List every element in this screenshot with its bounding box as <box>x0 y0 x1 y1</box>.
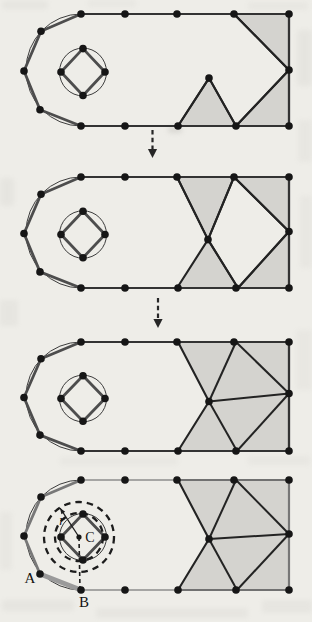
mesh-node <box>77 173 85 181</box>
mesh-node <box>79 556 87 564</box>
discretized-arc-front <box>24 14 81 126</box>
mesh-node <box>232 586 240 594</box>
panel-step-3 <box>20 338 293 455</box>
mesh-node <box>77 338 85 346</box>
mesh-node <box>121 586 129 594</box>
label-C: C <box>85 530 94 545</box>
mesh-node <box>285 390 293 398</box>
panel-step-2 <box>20 173 293 292</box>
true-arc-geometry <box>26 177 81 288</box>
mesh-node <box>77 10 85 18</box>
mesh-node <box>77 122 85 130</box>
mesh-node <box>37 493 45 501</box>
mesh-node <box>285 228 293 236</box>
mesh-node <box>79 418 87 426</box>
mesh-node <box>101 533 109 541</box>
mesh-node <box>37 190 45 198</box>
mesh-node <box>204 236 212 244</box>
mesh-node <box>173 338 181 346</box>
mesh-node <box>173 476 181 484</box>
mesh-node <box>285 586 293 594</box>
step-transition-arrow <box>148 130 157 158</box>
mesh-node <box>79 254 87 262</box>
mesh-node <box>101 68 109 76</box>
true-arc-geometry <box>26 342 81 451</box>
label-A: A <box>25 570 36 586</box>
active-front-edge-AB <box>40 574 81 590</box>
mesh-node <box>77 284 85 292</box>
mesh-node <box>77 447 85 455</box>
mesh-node <box>57 533 65 541</box>
true-hole-geometry <box>60 211 107 258</box>
mesh-node <box>121 173 129 181</box>
mesh-node <box>79 510 87 518</box>
mesh-node <box>20 532 28 540</box>
mesh-node <box>230 476 238 484</box>
mesh-node <box>232 122 240 130</box>
mesh-node <box>101 395 109 403</box>
mesh-node <box>174 284 182 292</box>
mesh-node <box>230 338 238 346</box>
mesh-node <box>230 10 238 18</box>
shaded-mesh-region <box>178 78 236 126</box>
mesh-node <box>36 106 44 114</box>
mesh-node <box>174 122 182 130</box>
mesh-node <box>174 447 182 455</box>
mesh-node <box>285 530 293 538</box>
mesh-node <box>173 10 181 18</box>
mesh-node <box>173 173 181 181</box>
mesh-node <box>79 92 87 100</box>
mesh-node <box>20 230 28 238</box>
advancing-front-mesh-diagram: CrAB <box>0 0 312 622</box>
mesh-node <box>285 122 293 130</box>
shaded-mesh-region <box>178 342 289 451</box>
mesh-node <box>57 395 65 403</box>
mesh-node <box>77 586 85 594</box>
mesh-node <box>20 394 28 402</box>
mesh-node <box>36 431 44 439</box>
step-transition-arrow <box>153 298 162 328</box>
mesh-node <box>37 355 45 363</box>
mesh-node <box>285 476 293 484</box>
label-r: r <box>59 513 65 528</box>
mesh-node <box>285 66 293 74</box>
mesh-node <box>57 68 65 76</box>
mesh-node <box>121 122 129 130</box>
mesh-node <box>285 447 293 455</box>
mesh-node <box>230 173 238 181</box>
panel-step-4: CrAB <box>20 476 293 610</box>
scanned-figure-page: CrAB <box>0 0 312 622</box>
arrow-head-icon <box>148 149 157 158</box>
true-arc-geometry <box>26 14 81 126</box>
shaded-mesh-region <box>177 240 238 288</box>
mesh-node <box>37 28 45 36</box>
mesh-node <box>285 284 293 292</box>
discretized-hole-front <box>61 514 105 560</box>
mesh-node <box>205 74 213 82</box>
discretized-arc-front <box>24 342 81 451</box>
arrow-head-icon <box>153 319 162 328</box>
mesh-node <box>79 45 87 53</box>
center-point-C <box>76 534 81 539</box>
mesh-node <box>101 231 109 239</box>
mesh-node <box>285 338 293 346</box>
mesh-node <box>121 10 129 18</box>
mesh-node <box>205 398 213 406</box>
mesh-node <box>36 268 44 276</box>
mesh-node <box>79 372 87 380</box>
mesh-node <box>121 476 129 484</box>
mesh-node <box>20 67 28 75</box>
mesh-node <box>174 586 182 594</box>
label-B: B <box>79 594 89 610</box>
mesh-node <box>77 476 85 484</box>
discretized-arc-front <box>24 177 81 288</box>
panel-step-1 <box>20 10 293 130</box>
mesh-node <box>121 447 129 455</box>
mesh-node <box>232 284 240 292</box>
discretized-hole-front <box>61 376 105 422</box>
mesh-node <box>121 284 129 292</box>
discretized-hole-front <box>61 49 105 96</box>
mesh-node <box>36 570 44 578</box>
mesh-node <box>285 173 293 181</box>
mesh-node <box>285 10 293 18</box>
